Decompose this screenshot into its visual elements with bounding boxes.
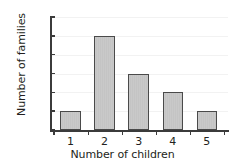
x-axis-title: Number of children [0, 148, 245, 161]
gridline [50, 17, 228, 18]
x-axis-tick [224, 131, 225, 135]
bar-chart: Number of families Number of children 05… [0, 0, 245, 165]
y-axis-tick [51, 54, 55, 55]
bar [128, 74, 148, 131]
y-axis-tick [51, 110, 55, 111]
x-axis-tick-label: 1 [57, 136, 83, 148]
y-axis-title: Number of families [15, 0, 28, 130]
gridline [50, 55, 228, 56]
x-axis-tick [53, 131, 54, 135]
y-axis-tick [51, 16, 55, 17]
x-axis-tick [190, 131, 191, 135]
y-axis-tick [51, 73, 55, 74]
gridline [50, 36, 228, 37]
x-axis-tick-label: 5 [194, 136, 220, 148]
x-axis-tick-label: 3 [126, 136, 152, 148]
x-axis-tick [122, 131, 123, 135]
x-axis-tick-label: 4 [160, 136, 186, 148]
x-axis-tick-label: 2 [92, 136, 118, 148]
bar [163, 92, 183, 130]
bar [60, 111, 80, 130]
x-axis-line [50, 130, 229, 132]
y-axis-tick [51, 92, 55, 93]
bar [94, 36, 114, 130]
y-axis-tick [51, 35, 55, 36]
x-axis-tick [88, 131, 89, 135]
bar [197, 111, 217, 130]
x-axis-tick [156, 131, 157, 135]
